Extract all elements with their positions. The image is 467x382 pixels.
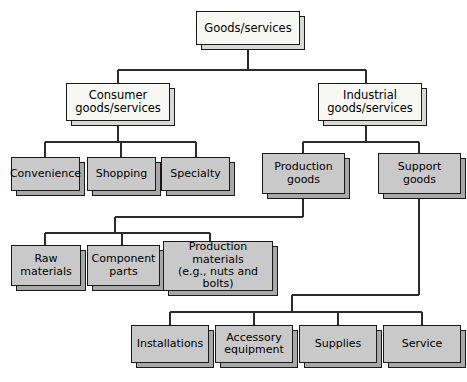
node-installations[interactable]: Installations — [131, 325, 209, 363]
node-supplies[interactable]: Supplies — [299, 325, 377, 363]
node-label-consumer: Consumer goods/services — [75, 89, 161, 115]
node-production-goods[interactable]: Production goods — [262, 153, 345, 194]
node-label-production-materials: Production materials (e.g., nuts and bol… — [166, 241, 270, 290]
node-specialty[interactable]: Specialty — [161, 157, 230, 191]
node-label-convenience: Convenience — [10, 168, 81, 180]
node-production-materials[interactable]: Production materials (e.g., nuts and bol… — [163, 241, 273, 291]
node-label-production-goods: Production goods — [274, 161, 333, 186]
node-label-service: Service — [402, 338, 443, 350]
goods-services-hierarchy-diagram: Goods/servicesConsumer goods/servicesInd… — [0, 0, 467, 382]
node-label-support-goods: Support goods — [398, 161, 441, 186]
node-accessory-equipment[interactable]: Accessory equipment — [215, 325, 293, 363]
node-support-goods[interactable]: Support goods — [378, 153, 461, 194]
node-convenience[interactable]: Convenience — [11, 157, 80, 191]
node-raw-materials[interactable]: Raw materials — [11, 245, 81, 286]
node-label-installations: Installations — [137, 338, 204, 350]
node-consumer[interactable]: Consumer goods/services — [66, 83, 170, 121]
node-label-industrial: Industrial goods/services — [327, 89, 413, 115]
node-root[interactable]: Goods/services — [196, 11, 300, 45]
node-shopping[interactable]: Shopping — [87, 157, 156, 191]
node-label-root: Goods/services — [204, 22, 291, 35]
node-service[interactable]: Service — [383, 325, 461, 363]
node-label-raw-materials: Raw materials — [20, 253, 72, 278]
node-label-accessory-equipment: Accessory equipment — [224, 332, 284, 357]
node-label-shopping: Shopping — [96, 168, 148, 180]
node-label-component-parts: Component parts — [92, 253, 156, 278]
node-industrial[interactable]: Industrial goods/services — [318, 83, 422, 121]
node-label-supplies: Supplies — [315, 338, 362, 350]
node-component-parts[interactable]: Component parts — [87, 245, 160, 286]
node-label-specialty: Specialty — [170, 168, 220, 180]
